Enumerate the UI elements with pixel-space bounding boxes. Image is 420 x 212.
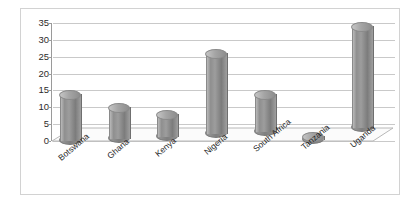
bar	[109, 107, 129, 139]
bar-body	[352, 26, 374, 128]
chart-frame: 05101520253035 BotswanaGhanaKenyaNigeria…	[20, 8, 400, 195]
chart-plot-area: 05101520253035 BotswanaGhanaKenyaNigeria…	[21, 9, 401, 196]
bar	[352, 26, 372, 128]
bar-top-ellipse	[254, 90, 276, 100]
bar-top-ellipse	[59, 90, 81, 100]
bar	[206, 53, 226, 134]
bar-body	[206, 53, 228, 134]
bar	[157, 114, 177, 137]
bar	[60, 94, 80, 141]
bar	[255, 94, 275, 133]
bar-body	[60, 94, 82, 141]
